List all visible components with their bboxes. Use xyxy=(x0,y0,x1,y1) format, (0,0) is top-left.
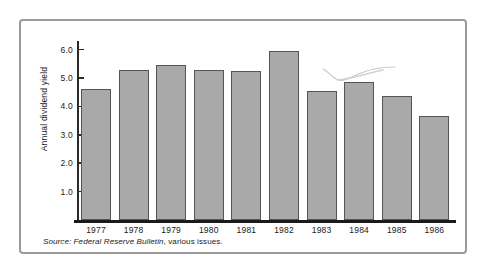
figure-frame: Annual dividend yield 1.02.03.04.05.06.0… xyxy=(19,19,467,254)
bar-1981 xyxy=(231,71,261,220)
x-axis-tick-label: 1979 xyxy=(152,225,190,235)
x-axis-tick-label: 1981 xyxy=(227,225,265,235)
bar-1986 xyxy=(419,116,449,220)
bar-1977 xyxy=(81,89,111,220)
bar-1985 xyxy=(382,96,412,220)
source-note: Source: Federal Reserve Bulletin, variou… xyxy=(43,237,223,246)
x-axis-tick-label: 1980 xyxy=(190,225,228,235)
x-axis-tick-label: 1983 xyxy=(303,225,341,235)
source-publication: Federal Reserve Bulletin xyxy=(74,237,164,246)
x-axis-tick-label: 1982 xyxy=(265,225,303,235)
bar-1984 xyxy=(344,82,374,220)
bar-1979 xyxy=(156,65,186,220)
x-axis-tick-label: 1984 xyxy=(340,225,378,235)
bar-1978 xyxy=(119,70,149,220)
bar-series: 1977197819791980198119821983198419851986 xyxy=(21,21,469,256)
chart-plot-area: Annual dividend yield 1.02.03.04.05.06.0… xyxy=(21,21,469,256)
x-axis-tick-label: 1986 xyxy=(415,225,453,235)
source-prefix: Source: xyxy=(43,237,71,246)
bar-1982 xyxy=(269,51,299,220)
x-axis-tick-label: 1985 xyxy=(378,225,416,235)
bar-1983 xyxy=(307,91,337,220)
source-suffix: , various issues. xyxy=(164,237,223,246)
x-axis-tick-label: 1977 xyxy=(77,225,115,235)
x-axis-tick-label: 1978 xyxy=(115,225,153,235)
bar-1980 xyxy=(194,70,224,220)
